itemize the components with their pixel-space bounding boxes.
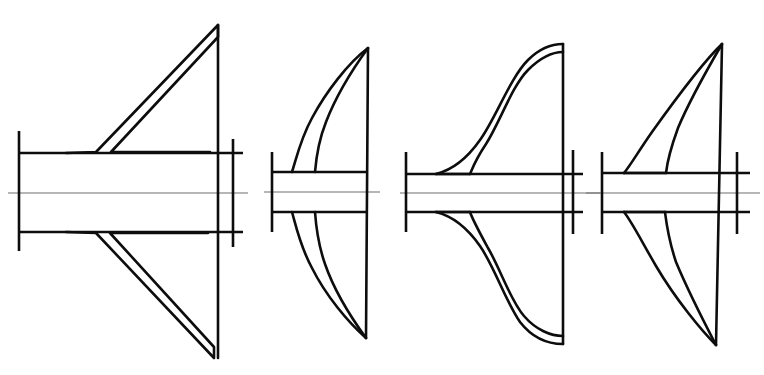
figure-2-group bbox=[264, 48, 380, 338]
figure-4-upper-blade-inner bbox=[666, 44, 722, 173]
figure-4-lower-blade-inner bbox=[665, 212, 716, 345]
figure-4-lower-blade-outline bbox=[624, 212, 716, 345]
figure-1-group bbox=[8, 25, 248, 358]
propeller-profile-canvas bbox=[0, 0, 764, 375]
figure-3-upper-blade-inner bbox=[470, 52, 563, 174]
figure-2-upper-blade-inner bbox=[315, 48, 368, 172]
figure-1-upper-blade-outline bbox=[66, 25, 218, 153]
figure-4-trailing-edge bbox=[716, 44, 722, 345]
figure-3-group bbox=[400, 44, 600, 344]
figure-4-group bbox=[586, 44, 760, 345]
figure-1-lower-blade-outline bbox=[66, 232, 214, 358]
figure-3-upper-blade-outline bbox=[436, 44, 563, 174]
figure-4-upper-blade-outline bbox=[624, 44, 722, 173]
figure-3-lower-blade-outline bbox=[436, 212, 563, 344]
figure-2-lower-blade-inner bbox=[315, 212, 366, 338]
figure-2-trailing-edge bbox=[366, 48, 368, 338]
propeller-profile-sheet bbox=[0, 0, 764, 375]
